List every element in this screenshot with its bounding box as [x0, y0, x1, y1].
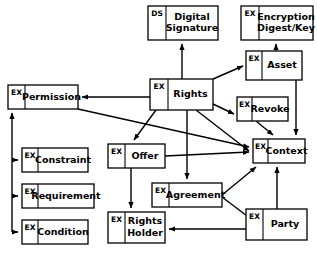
node-party[interactable]: EXParty [246, 209, 307, 240]
stereotype-label-context: EX [255, 142, 266, 151]
node-label-constraint: Constraint [35, 154, 92, 165]
stereotype-label-rights-holder: EX [111, 215, 122, 224]
edge-rights-to-revoke [213, 104, 234, 114]
stereotype-label-encryption-digest-key: EX [245, 9, 256, 18]
edge-offer-to-context [165, 152, 249, 156]
stereotype-label-rights: EX [154, 82, 165, 91]
node-label-requirement: Requirement [31, 190, 101, 201]
stereotype-label-asset: EX [249, 54, 260, 63]
node-rights[interactable]: EXRights [150, 79, 213, 110]
node-label-digital-signature: Digital [174, 11, 209, 22]
node-revoke[interactable]: EXRevoke [237, 97, 289, 121]
node-label-context: Context [266, 145, 308, 156]
node-label-revoke: Revoke [251, 103, 290, 114]
node-permission[interactable]: EXPermission [8, 85, 81, 109]
node-label-party: Party [271, 218, 300, 229]
node-label-permission: Permission [22, 91, 81, 102]
stereotype-label-revoke: EX [239, 100, 250, 109]
stereotype-label-offer: EX [111, 147, 122, 156]
edge-revoke-to-context [256, 121, 273, 135]
node-label-rights-holder: Rights [128, 215, 163, 226]
edge-rights-to-asset [213, 66, 243, 79]
node-constraint[interactable]: EXConstraint [22, 148, 92, 172]
node-label-encryption-digest-key: Encryption [257, 11, 315, 22]
node-layer: DSDigitalSignatureEXEncryptionDigest/Key… [8, 6, 316, 244]
node-encryption-digest-key[interactable]: EXEncryptionDigest/Key [241, 6, 316, 40]
diagram-root: DSDigitalSignatureEXEncryptionDigest/Key… [0, 0, 317, 254]
node-label-encryption-digest-key: Digest/Key [257, 22, 316, 33]
node-offer[interactable]: EXOffer [108, 144, 165, 168]
node-digital-signature[interactable]: DSDigitalSignature [148, 6, 218, 40]
edge-agreement-to-context [222, 167, 256, 195]
node-asset[interactable]: EXAsset [246, 51, 302, 80]
node-label-digital-signature: Signature [166, 22, 219, 33]
stereotype-label-agreement: EX [155, 186, 166, 195]
edge-permission-to-context [78, 109, 249, 147]
node-label-asset: Asset [267, 59, 297, 70]
stereotype-label-permission: EX [11, 88, 22, 97]
node-label-offer: Offer [132, 150, 159, 161]
node-label-rights-holder: Holder [127, 227, 163, 238]
node-condition[interactable]: EXCondition [22, 220, 89, 244]
diagram-canvas: DSDigitalSignatureEXEncryptionDigest/Key… [0, 0, 317, 254]
node-label-agreement: Agreement [166, 189, 226, 200]
node-label-rights: Rights [173, 88, 208, 99]
node-label-condition: Condition [37, 226, 89, 237]
node-context[interactable]: EXContext [253, 139, 308, 163]
node-agreement[interactable]: EXAgreement [152, 183, 226, 207]
stereotype-label-condition: EX [25, 223, 36, 232]
stereotype-label-party: EX [249, 212, 260, 221]
node-rights-holder[interactable]: EXRightsHolder [108, 212, 165, 243]
node-requirement[interactable]: EXRequirement [22, 184, 101, 208]
stereotype-label-digital-signature: DS [151, 9, 163, 18]
